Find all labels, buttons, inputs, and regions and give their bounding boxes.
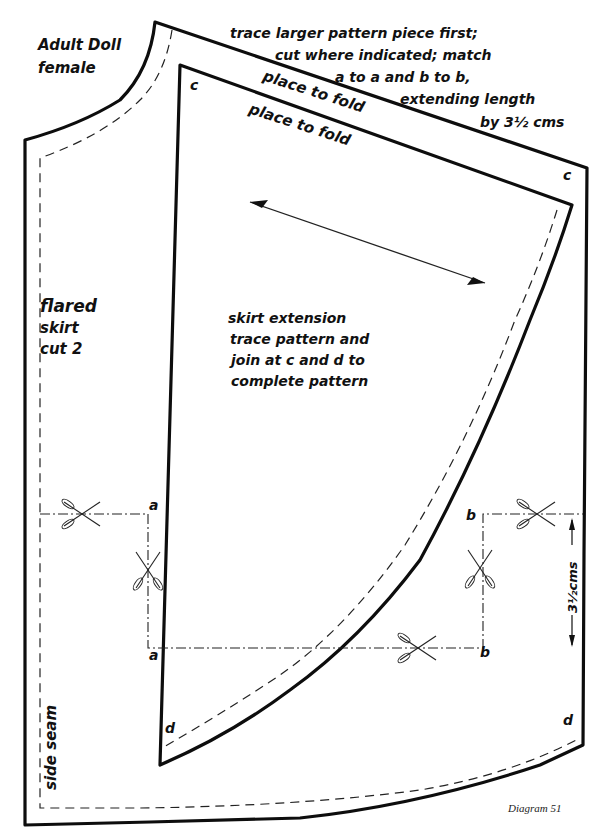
point-a-upper: a (149, 497, 158, 513)
piece-label-2: skirt (40, 319, 79, 337)
extension-label-4: complete pattern (231, 373, 368, 389)
side-seam-label: side seam (42, 705, 60, 790)
extension-label-1: skirt extension (228, 310, 346, 326)
extension-outline (160, 65, 572, 765)
instruction-line-2: cut where indicated; match (275, 47, 492, 63)
pattern-diagram: Adult Doll female trace larger pattern p… (0, 0, 592, 835)
instruction-line-3: a to a and b to b, (335, 69, 471, 85)
measurement-label: 3½cms (565, 561, 580, 613)
piece-label-3: cut 2 (40, 340, 82, 358)
instruction-line-5: by 3½ cms (480, 114, 564, 130)
extension-seam-allowance (162, 210, 557, 748)
title-line-2: female (38, 59, 96, 77)
skirt-outline (25, 22, 587, 825)
point-d-right: d (563, 712, 574, 728)
instruction-line-1: trace larger pattern piece first; (230, 25, 478, 41)
point-b-upper: b (466, 507, 476, 523)
point-c-left: c (190, 77, 199, 93)
point-b-lower: b (480, 644, 490, 660)
skirt-seam-allowance (40, 30, 580, 808)
grainline-arrow (250, 200, 485, 285)
point-d-left: d (165, 720, 176, 736)
scissors-icon (464, 550, 497, 589)
instruction-line-4: extending length (400, 91, 535, 107)
cut-line-left (40, 514, 583, 648)
diagram-caption: Diagram 51 (507, 802, 561, 814)
extension-label-3: join at c and d to (229, 352, 365, 368)
point-c-right: c (563, 167, 572, 183)
extension-label-2: trace pattern and (230, 331, 370, 347)
piece-label-1: flared (40, 296, 98, 316)
point-a-lower: a (149, 647, 158, 663)
title-line-1: Adult Doll (37, 36, 122, 54)
